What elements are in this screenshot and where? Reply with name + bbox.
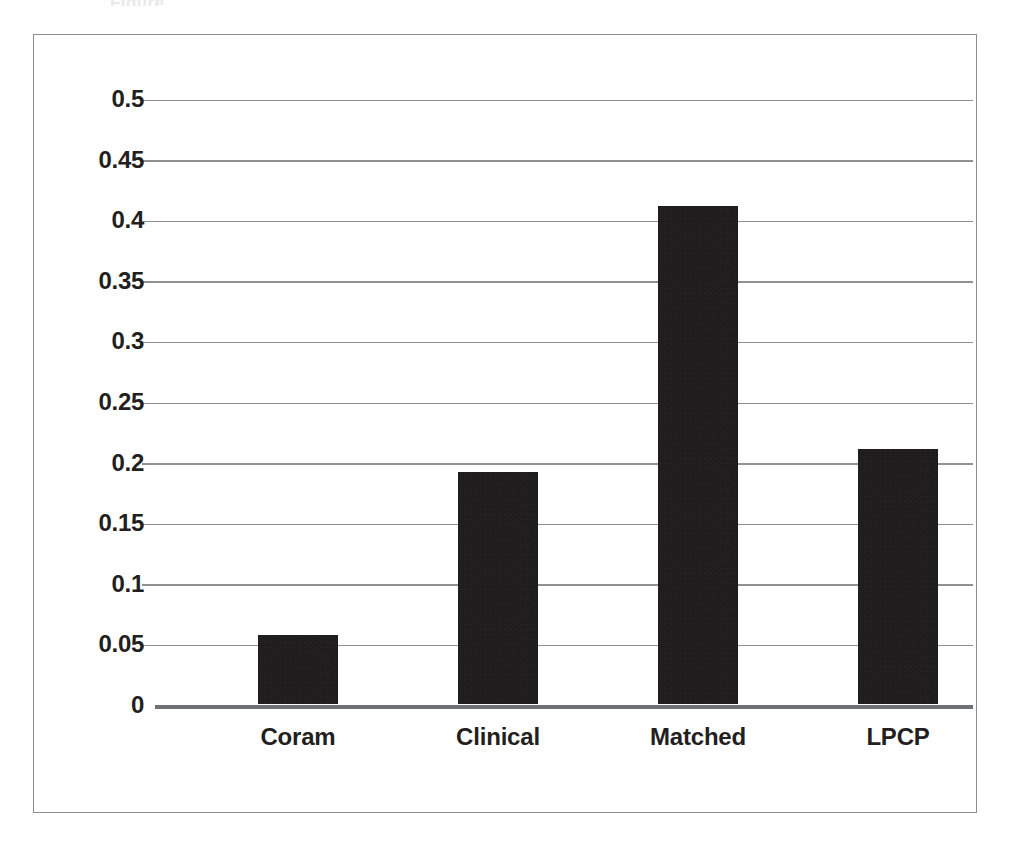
xtick-label-lpcp: LPCP [808, 725, 988, 749]
xtick-label-matched: Matched [608, 725, 788, 749]
xtick-label-coram: Coram [208, 725, 388, 749]
plot-area: 0.5 0.45 0.4 0.35 0.3 0.25 0.2 0.15 0.1 … [34, 35, 976, 812]
bar-coram[interactable] [258, 635, 338, 704]
bar-lpcp[interactable] [858, 449, 938, 705]
cropped-caption-remnant: Figure [0, 0, 1011, 6]
bars-layer [34, 35, 976, 812]
bar-matched[interactable] [658, 206, 738, 704]
bar-clinical[interactable] [458, 472, 538, 705]
xtick-label-clinical: Clinical [408, 725, 588, 749]
figure-frame: 0.5 0.45 0.4 0.35 0.3 0.25 0.2 0.15 0.1 … [33, 34, 977, 813]
